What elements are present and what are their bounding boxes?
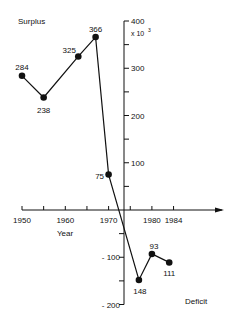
- series-line: [22, 37, 169, 280]
- y-tick-label: - 100: [102, 253, 121, 262]
- data-point-label: 93: [149, 242, 158, 251]
- data-point: [105, 171, 112, 178]
- data-point-label: 238: [37, 106, 51, 115]
- data-point-label: 366: [89, 25, 103, 34]
- x-tick-label: 1984: [165, 216, 183, 225]
- data-point: [149, 251, 156, 258]
- y-tick-label: 100: [131, 159, 145, 168]
- x-axis-arrow-icon: [215, 208, 224, 213]
- data-point-label: 111: [163, 269, 176, 278]
- axes: 400300200100- 100- 200x 1031950196019701…: [13, 17, 224, 310]
- data-point-label: 148: [133, 287, 147, 296]
- x-axis-title: Year: [57, 229, 74, 238]
- y-tick-label: - 200: [102, 301, 121, 310]
- data-line: [22, 37, 169, 280]
- data-point-label: 75: [95, 172, 104, 181]
- data-point: [40, 94, 47, 101]
- x-tick-label: 1960: [56, 216, 74, 225]
- y-multiplier-label: x 10: [131, 30, 144, 37]
- x-tick-label: 1950: [13, 216, 31, 225]
- y-axis-title-deficit: Deficit: [185, 297, 208, 306]
- x-tick-label: 1970: [100, 216, 118, 225]
- y-tick-label: 300: [131, 64, 145, 73]
- data-point-label: 284: [15, 63, 29, 72]
- y-multiplier-exponent: 3: [148, 27, 151, 33]
- data-point: [92, 34, 99, 41]
- y-tick-label: 200: [131, 112, 145, 121]
- data-point-label: 325: [63, 46, 77, 55]
- data-point: [136, 277, 143, 284]
- x-tick-label: 1980: [143, 216, 161, 225]
- surplus-deficit-chart: 400300200100- 100- 200x 1031950196019701…: [0, 0, 235, 324]
- y-axis-title-surplus: Surplus: [18, 17, 45, 26]
- data-point: [19, 73, 26, 80]
- y-tick-label: 400: [131, 17, 145, 26]
- labels: SurplusYearDeficit2842383253667514893111: [15, 17, 208, 306]
- data-point: [166, 259, 173, 266]
